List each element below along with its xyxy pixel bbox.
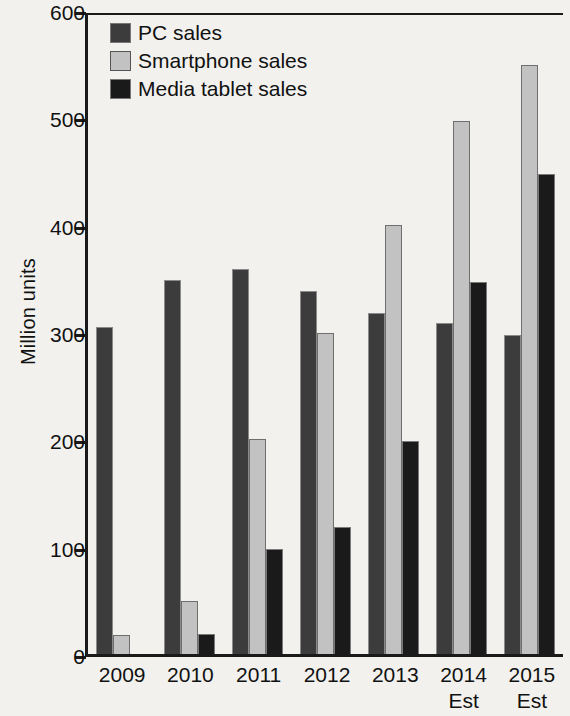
legend-item: Smartphone sales — [110, 48, 307, 73]
x-axis-tick-label-year: 2010 — [167, 663, 214, 686]
bar — [164, 280, 181, 654]
legend-swatch-icon — [110, 23, 131, 43]
y-axis-tick-label: 200 — [23, 431, 85, 452]
bar — [470, 282, 487, 654]
y-axis-tick-label: 400 — [23, 217, 85, 238]
bar — [300, 291, 317, 654]
x-axis-tick-label: 2010 — [156, 662, 224, 714]
plot-area — [85, 13, 563, 657]
bar-groups — [88, 13, 563, 654]
legend-swatch-icon — [110, 51, 131, 71]
bar — [368, 313, 385, 654]
x-axis-tick-label: 2015Est — [498, 662, 566, 714]
bar — [249, 439, 266, 654]
legend-swatch-icon — [110, 79, 131, 99]
bar-group — [495, 13, 563, 654]
bar-group — [427, 13, 495, 654]
bar — [113, 635, 130, 654]
bar — [266, 549, 283, 654]
legend-item-label: Media tablet sales — [138, 78, 307, 99]
x-axis-tick-label: 2014Est — [429, 662, 497, 714]
x-axis-tick-label: 2013 — [361, 662, 429, 714]
bar-group — [224, 13, 292, 654]
legend-item-label: PC sales — [138, 22, 222, 43]
x-axis-tick-label-estimate: Est — [498, 687, 566, 714]
bar — [96, 327, 113, 654]
x-axis-tick-label-year: 2012 — [304, 663, 351, 686]
bar — [504, 335, 521, 654]
y-axis-tick-label: 500 — [23, 109, 85, 130]
y-axis-tick-labels: 0100200300400500600 — [0, 0, 85, 644]
bar — [385, 225, 402, 654]
bar — [317, 333, 334, 654]
x-axis-line — [85, 654, 563, 657]
y-axis-tick-label: 0 — [23, 646, 85, 667]
bar — [453, 121, 470, 654]
x-axis-tick-label-year: 2014 — [440, 663, 487, 686]
bar — [198, 634, 215, 654]
x-axis-tick-label-estimate: Est — [429, 687, 497, 714]
x-axis-tick-label-year: 2015 — [508, 663, 555, 686]
bar — [402, 441, 419, 654]
bar-group — [156, 13, 224, 654]
x-axis-tick-label-year: 2009 — [99, 663, 146, 686]
legend-item: Media tablet sales — [110, 76, 307, 101]
bar-group — [359, 13, 427, 654]
x-axis-tick-label-year: 2013 — [372, 663, 419, 686]
bar — [181, 601, 198, 654]
chart-legend: PC salesSmartphone salesMedia tablet sal… — [110, 20, 307, 101]
legend-item: PC sales — [110, 20, 307, 45]
bar — [232, 269, 249, 654]
bar — [436, 323, 453, 654]
bar-group — [88, 13, 156, 654]
x-axis-tick-label: 2011 — [225, 662, 293, 714]
x-axis-tick-label: 2009 — [88, 662, 156, 714]
y-axis-tick-label: 600 — [23, 2, 85, 23]
y-axis-tick-label: 100 — [23, 539, 85, 560]
x-axis-tick-label: 2012 — [293, 662, 361, 714]
legend-item-label: Smartphone sales — [138, 50, 307, 71]
bar-group — [292, 13, 360, 654]
y-axis-tick-label: 300 — [23, 324, 85, 345]
bar — [521, 65, 538, 654]
x-axis-tick-label-year: 2011 — [236, 663, 281, 686]
bar — [334, 527, 351, 654]
bar-chart: Million units 0100200300400500600 200920… — [0, 0, 570, 716]
x-axis-tick-labels: 200920102011201220132014Est2015Est — [88, 662, 566, 714]
bar — [538, 174, 555, 654]
